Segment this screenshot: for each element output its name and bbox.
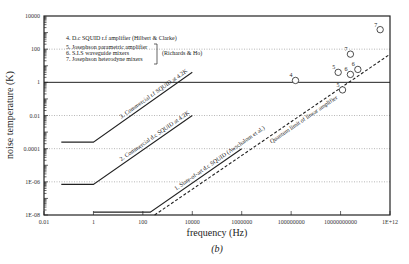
legend-bracket — [154, 44, 157, 64]
x-tick-label: 1E+12 — [382, 219, 398, 225]
data-point — [339, 87, 345, 93]
data-point-label: 5 — [337, 82, 340, 88]
series-line-4 — [155, 54, 390, 215]
data-point-label: 5 — [332, 64, 335, 70]
data-point — [355, 66, 361, 72]
x-tick-label: 10000 — [185, 219, 200, 225]
series-label: 3. Commercial r.f SQUID at 4.2K — [118, 67, 188, 119]
series-lines — [61, 54, 390, 215]
y-axis-title: noise temperature (K) — [4, 71, 16, 159]
y-tick-label: 0.0001 — [24, 146, 41, 152]
chart: 4556677 1000010010.010.00011E-061E-080.0… — [0, 0, 409, 264]
figure-caption: (b) — [211, 243, 223, 255]
x-tick-label: 10000000000 — [324, 219, 357, 225]
legend-annotation: 4. D.c SQUID r.f amplifier (Hilbert & Cl… — [66, 35, 177, 42]
data-point — [347, 51, 353, 57]
x-tick-label: 100 — [138, 219, 147, 225]
x-tick-label: 100000000 — [278, 219, 305, 225]
data-point-label: 6 — [344, 66, 347, 72]
data-point — [377, 26, 383, 32]
y-tick-label: 1 — [37, 79, 40, 85]
y-tick-label: 100 — [31, 46, 40, 52]
series-label: Quantum limit of linear amplifier — [269, 94, 339, 144]
x-tick-label: 0.01 — [39, 219, 50, 225]
y-tick-label: 10000 — [25, 13, 40, 19]
data-point-label: 7 — [374, 22, 377, 28]
legend-annotation: 7. Josephson heterodyne mixers — [66, 56, 143, 62]
data-point-label: 7 — [344, 46, 347, 52]
y-tick-label: 0.01 — [30, 113, 41, 119]
data-point — [292, 77, 298, 83]
y-tick-label: 1E-06 — [25, 179, 40, 185]
labels: 3. Commercial r.f SQUID at 4.2K2. Commer… — [66, 35, 338, 192]
x-tick-label: 1000000 — [231, 219, 252, 225]
data-point — [335, 69, 341, 75]
data-point — [347, 71, 353, 77]
data-point-label: 6 — [352, 61, 355, 67]
data-point-label: 4 — [289, 72, 292, 78]
y-tick-label: 1E-08 — [25, 212, 40, 218]
x-tick-label: 1 — [92, 219, 95, 225]
x-axis-title: frequency (Hz) — [187, 227, 248, 239]
legend-annotation-ref: (Richards & Ho) — [162, 50, 202, 57]
